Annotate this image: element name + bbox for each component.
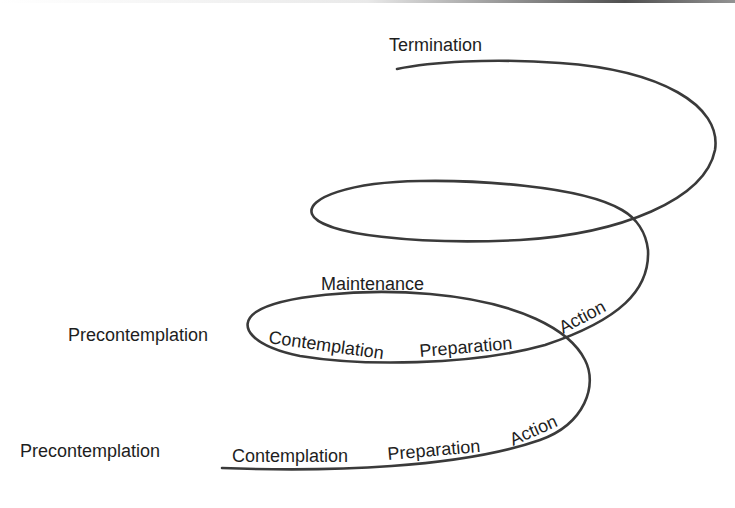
label-lower-action: Action [506, 411, 560, 450]
label-upper-contemplation: Contemplation [267, 327, 385, 363]
label-upper-precontemplation: Precontemplation [68, 325, 208, 345]
label-lower-preparation: Preparation [387, 436, 481, 464]
stages-of-change-spiral-diagram: Termination Maintenance Precontemplation… [0, 0, 735, 508]
label-lower-precontemplation: Precontemplation [20, 441, 160, 461]
label-termination: Termination [389, 35, 482, 55]
label-maintenance: Maintenance [321, 274, 424, 294]
label-upper-preparation: Preparation [419, 333, 513, 361]
label-lower-contemplation: Contemplation [232, 446, 348, 466]
spiral-path [222, 61, 716, 470]
